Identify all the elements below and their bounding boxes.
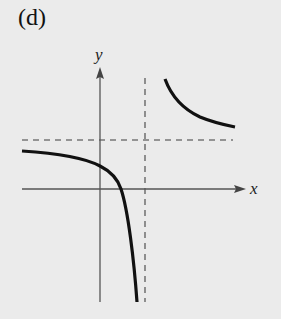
graph-canvas: x y [0,0,281,319]
curve-left-branch [22,151,137,302]
y-axis-label: y [93,45,103,64]
x-axis-label: x [249,179,258,198]
curve-right-branch [165,79,235,127]
graph-panel: (d) x y [0,0,281,319]
